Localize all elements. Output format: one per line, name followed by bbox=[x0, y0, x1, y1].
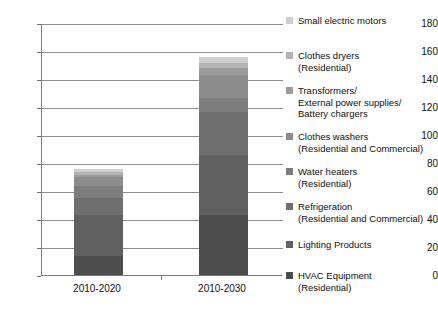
bar-segment-refrigeration[interactable] bbox=[74, 198, 123, 215]
bar-segment-clothes-dryers[interactable] bbox=[199, 63, 248, 69]
bar-segment-transformers[interactable] bbox=[199, 68, 248, 75]
gridline bbox=[42, 24, 283, 25]
legend-item-clothes-dryers[interactable]: Clothes dryers (Residential) bbox=[286, 50, 359, 73]
legend-item-label: Refrigeration (Residential and Commercia… bbox=[298, 201, 423, 224]
bar-segment-small-electric-motors[interactable] bbox=[74, 169, 123, 172]
bar-segment-hvac-equipment[interactable] bbox=[74, 256, 123, 276]
legend-item-transformers[interactable]: Transformers/ External power supplies/ B… bbox=[286, 85, 402, 120]
bar-segment-clothes-washers[interactable] bbox=[74, 177, 123, 185]
legend-swatch-icon bbox=[286, 17, 293, 24]
bar-segment-clothes-washers[interactable] bbox=[199, 75, 248, 97]
x-axis-label-2010-2020: 2010-2020 bbox=[37, 283, 157, 294]
legend-item-label: HVAC Equipment (Residential) bbox=[298, 270, 372, 293]
legend-item-label: Water heaters (Residential) bbox=[298, 166, 357, 189]
bar-segment-lighting-products[interactable] bbox=[74, 215, 123, 256]
y-tick-mark bbox=[37, 276, 41, 277]
bar-segment-clothes-dryers[interactable] bbox=[74, 172, 123, 175]
legend-item-small-electric-motors[interactable]: Small electric motors bbox=[286, 15, 386, 27]
gridline bbox=[42, 52, 283, 53]
legend-swatch-icon bbox=[286, 272, 293, 279]
y-tick-label: 60 bbox=[404, 187, 438, 197]
x-axis-label-2010-2030: 2010-2030 bbox=[162, 283, 282, 294]
legend-item-hvac-equipment[interactable]: HVAC Equipment (Residential) bbox=[286, 270, 372, 293]
legend-item-label: Lighting Products bbox=[298, 239, 371, 251]
y-tick-label: 20 bbox=[404, 243, 438, 253]
legend-swatch-icon bbox=[286, 52, 293, 59]
y-tick-label: 0 bbox=[404, 271, 438, 281]
x-tick-mark bbox=[161, 276, 162, 280]
legend-item-refrigeration[interactable]: Refrigeration (Residential and Commercia… bbox=[286, 201, 423, 224]
legend-item-lighting-products[interactable]: Lighting Products bbox=[286, 239, 371, 251]
bar-segment-refrigeration[interactable] bbox=[199, 112, 248, 155]
stacked-bar-chart: 180 160 140 120 100 80 60 40 20 0 bbox=[0, 0, 438, 311]
bar-segment-water-heaters[interactable] bbox=[199, 98, 248, 112]
y-tick-label: 120 bbox=[404, 103, 438, 113]
legend-item-water-heaters[interactable]: Water heaters (Residential) bbox=[286, 166, 357, 189]
plot-area bbox=[41, 24, 282, 276]
bar-2010-2020[interactable] bbox=[74, 169, 123, 275]
y-tick-label: 140 bbox=[404, 75, 438, 85]
bar-segment-lighting-products[interactable] bbox=[199, 155, 248, 215]
y-tick-label: 160 bbox=[404, 47, 438, 57]
bar-segment-transformers[interactable] bbox=[74, 175, 123, 178]
legend-item-label: Small electric motors bbox=[298, 15, 386, 27]
legend-swatch-icon bbox=[286, 168, 293, 175]
legend-item-label: Clothes washers (Residential and Commerc… bbox=[298, 131, 423, 154]
legend-swatch-icon bbox=[286, 203, 293, 210]
legend-item-clothes-washers[interactable]: Clothes washers (Residential and Commerc… bbox=[286, 131, 423, 154]
y-tick-label: 180 bbox=[404, 19, 438, 29]
bar-2010-2030[interactable] bbox=[199, 57, 248, 275]
legend-swatch-icon bbox=[286, 87, 293, 94]
bar-segment-water-heaters[interactable] bbox=[74, 186, 123, 199]
bar-segment-hvac-equipment[interactable] bbox=[199, 215, 248, 275]
bar-segment-small-electric-motors[interactable] bbox=[199, 57, 248, 63]
legend-item-label: Clothes dryers (Residential) bbox=[298, 50, 359, 73]
legend-swatch-icon bbox=[286, 241, 293, 248]
legend-swatch-icon bbox=[286, 133, 293, 140]
y-tick-label: 80 bbox=[404, 159, 438, 169]
legend-item-label: Transformers/ External power supplies/ B… bbox=[298, 85, 402, 120]
